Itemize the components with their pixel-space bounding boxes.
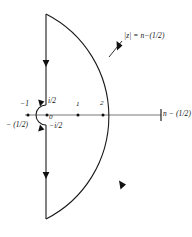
arrowhead-vertical-upper	[43, 60, 50, 67]
arrowhead-arc-upper	[117, 41, 123, 51]
arrowhead-indentation-lower	[38, 125, 44, 132]
contour-large-arc	[46, 14, 109, 219]
point-two	[102, 114, 105, 117]
label-minus-one-half: − (1/2)	[6, 121, 28, 129]
arrowhead-arc-lower	[119, 181, 126, 190]
origin-label: 0	[49, 113, 53, 121]
label-one: 1	[76, 101, 80, 108]
arc-label-leader	[109, 41, 122, 57]
label-minus-i-over-two: −i/2	[49, 122, 62, 130]
label-two: 2	[100, 100, 104, 107]
label-right-endpoint: n − (1/2)	[163, 110, 191, 118]
label-minus-one: −1	[20, 100, 29, 108]
point-one	[77, 114, 80, 117]
contour-figure: 0 −1 − (1/2) i/2 −i/2 1 2 n − (1/2) |z| …	[0, 0, 192, 237]
point-minus-one	[27, 114, 30, 117]
arrowhead-vertical-lower	[43, 172, 50, 179]
label-arc-radius: |z| = n−(1/2)	[124, 32, 165, 40]
label-i-over-two: i/2	[48, 97, 56, 105]
